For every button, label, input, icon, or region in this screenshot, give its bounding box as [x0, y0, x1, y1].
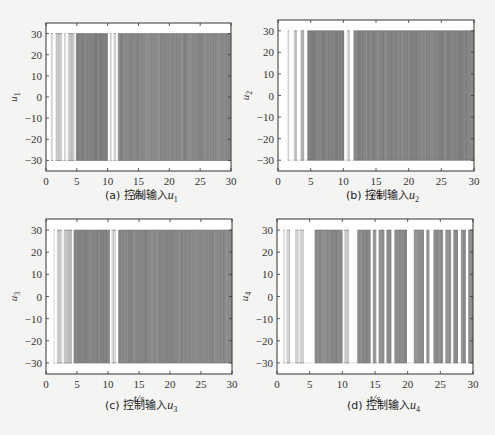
- caption-c: (c) 控制输入u3: [105, 396, 177, 414]
- x-tick-label: 5: [307, 378, 313, 390]
- caption-text: (a) 控制输入: [105, 189, 168, 202]
- y-tick-label: 0: [269, 90, 275, 102]
- y-axis-label: u3: [7, 292, 22, 302]
- caption-text: (c) 控制输入: [105, 399, 167, 412]
- y-tick-label: 10: [31, 268, 43, 280]
- y-tick-label: 20: [31, 246, 43, 258]
- y-tick-label: −10: [25, 112, 43, 124]
- y-tick-label: 0: [37, 291, 43, 303]
- y-tick-label: 0: [37, 91, 43, 103]
- x-tick-label: 0: [275, 175, 281, 187]
- panel-b: 0510152025303020100−10−20−30t/su2 (b) 控制…: [245, 0, 490, 215]
- x-tick-label: 0: [43, 378, 49, 390]
- y-tick-label: −30: [256, 357, 274, 369]
- x-tick-label: 10: [337, 378, 349, 390]
- y-tick-label: 10: [31, 70, 43, 82]
- y-tick-label: 10: [263, 68, 275, 80]
- y-tick-label: −30: [257, 154, 275, 166]
- x-tick-label: 25: [435, 378, 447, 390]
- y-tick-label: −30: [25, 357, 43, 369]
- caption-var: u3: [167, 398, 177, 412]
- x-tick-label: 25: [196, 378, 208, 390]
- caption-b: (b) 控制输入u2: [346, 186, 419, 204]
- y-tick-label: −20: [257, 133, 275, 145]
- y-tick-label: −30: [25, 154, 43, 166]
- y-tick-label: 30: [263, 25, 275, 37]
- panel-c: 0510152025303020100−10−20−30t/su3 (c) 控制…: [0, 215, 245, 430]
- x-tick-label: 5: [74, 378, 80, 390]
- x-tick-label: 10: [103, 378, 115, 390]
- x-tick-label: 5: [308, 175, 314, 187]
- y-axis-label: u1: [7, 92, 22, 102]
- x-tick-label: 30: [226, 175, 238, 187]
- caption-text: (b) 控制输入: [346, 189, 409, 202]
- x-tick-label: 20: [402, 378, 414, 390]
- y-tick-label: −10: [257, 111, 275, 123]
- x-tick-label: 25: [436, 175, 448, 187]
- x-tick-label: 30: [469, 175, 481, 187]
- caption-a: (a) 控制输入u1: [105, 186, 178, 204]
- panel-d: 0510152025303020100−10−20−30t/su4 (d) 控制…: [245, 215, 490, 430]
- y-tick-label: 20: [31, 49, 43, 61]
- y-tick-label: 20: [262, 246, 274, 258]
- y-tick-label: −20: [256, 335, 274, 347]
- panel-a: 0510152025303020100−10−20−30t/su1 (a) 控制…: [0, 0, 245, 215]
- caption-text: (d) 控制输入: [347, 399, 410, 412]
- y-tick-label: −10: [25, 313, 43, 325]
- signal-trace: [51, 34, 231, 161]
- caption-d: (d) 控制输入u4: [347, 396, 420, 414]
- chart-u1: 0510152025303020100−10−20−30t/su1: [0, 0, 245, 215]
- x-tick-label: 15: [370, 378, 382, 390]
- x-tick-label: 15: [134, 378, 146, 390]
- y-tick-label: 0: [268, 291, 274, 303]
- y-tick-label: 30: [262, 224, 274, 236]
- y-tick-label: 10: [262, 268, 274, 280]
- x-tick-label: 30: [227, 378, 239, 390]
- y-tick-label: 30: [31, 28, 43, 40]
- x-tick-label: 0: [274, 378, 280, 390]
- y-tick-label: −20: [25, 133, 43, 145]
- caption-var: u1: [168, 188, 178, 202]
- caption-var: u2: [409, 188, 419, 202]
- y-tick-label: −10: [256, 313, 274, 325]
- x-tick-label: 25: [195, 175, 207, 187]
- x-tick-label: 20: [165, 378, 177, 390]
- caption-var: u4: [410, 398, 420, 412]
- signal-trace: [53, 230, 232, 363]
- signal-trace: [288, 31, 474, 160]
- y-tick-label: 20: [263, 46, 275, 58]
- x-tick-label: 5: [74, 175, 80, 187]
- chart-u2: 0510152025303020100−10−20−30t/su2: [245, 0, 490, 215]
- x-tick-label: 0: [43, 175, 49, 187]
- y-tick-label: 30: [31, 224, 43, 236]
- y-tick-label: −20: [25, 335, 43, 347]
- x-tick-label: 30: [468, 378, 480, 390]
